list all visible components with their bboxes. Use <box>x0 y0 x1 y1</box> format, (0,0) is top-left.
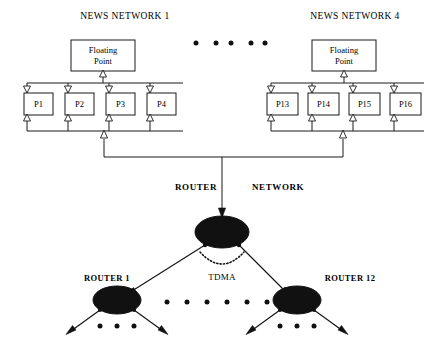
router-ellipsis-dot <box>205 300 210 305</box>
upper-arrow-p1 <box>24 86 31 93</box>
networks-ellipsis <box>194 41 268 46</box>
news-network-1-group: NEWS NETWORK 1 Floating Point P1 P2 <box>24 11 184 157</box>
tdma-label: TDMA <box>208 272 236 282</box>
upper-arrow-p4 <box>147 86 154 93</box>
router-1-leaf-dot <box>132 324 137 329</box>
router-12-label: ROUTER 12 <box>325 273 376 283</box>
router-1-leaf-dot <box>115 324 120 329</box>
router-1-label: ROUTER 1 <box>84 273 130 283</box>
processor-label-p15: P15 <box>358 99 371 109</box>
ellipsis-dot <box>263 41 268 46</box>
router-1-leaf-origin-right <box>132 308 136 312</box>
processor-label-p13: P13 <box>276 99 289 109</box>
upper-arrow-p14 <box>309 86 316 93</box>
router-1-leaf-origin-left <box>98 308 102 312</box>
center-router-node <box>195 216 249 248</box>
router-1-leaf-link-left <box>71 310 100 331</box>
router-12-leaf-origin-right <box>312 308 316 312</box>
trunk-group <box>104 157 343 218</box>
router-network-label-left: ROUTER <box>175 182 217 192</box>
router-network-label-right: NETWORK <box>252 182 304 192</box>
ellipsis-dot <box>249 41 254 46</box>
diagram-canvas: NEWS NETWORK 1 Floating Point P1 P2 <box>0 0 448 338</box>
router-1-leaf-arrowhead-right <box>158 326 168 335</box>
router-1-leaf-dot <box>98 324 103 329</box>
ellipsis-dot <box>194 41 199 46</box>
router-12-leaf-arrowhead-left <box>246 326 256 335</box>
router-ellipsis-dot <box>165 300 170 305</box>
processor-label-p4: P4 <box>157 99 167 109</box>
router-ellipsis-dot <box>265 300 270 305</box>
floating-point-label-line2-net4: Point <box>335 56 354 66</box>
news-network-4-group: NEWS NETWORK 4 Floating Point P13 P14 P1… <box>267 11 424 157</box>
link-center-to-router-1 <box>132 245 205 291</box>
processor-label-p1: P1 <box>34 99 43 109</box>
processor-label-p14: P14 <box>317 99 331 109</box>
router-ellipsis-dot <box>245 300 250 305</box>
router-12-leaf-dot <box>295 324 300 329</box>
router-1-leaf-arrowhead-left <box>66 326 76 335</box>
upper-arrow-p13 <box>268 86 275 93</box>
tdma-dotted-arc <box>200 252 244 264</box>
ellipsis-dot <box>229 41 234 46</box>
router-12-leaf-link-right <box>314 310 343 331</box>
floating-point-label-line1-net1: Floating <box>89 45 118 55</box>
processor-label-p2: P2 <box>75 99 84 109</box>
upper-arrow-p3 <box>106 86 113 93</box>
router-12-leaf-dot <box>278 324 283 329</box>
router-12-leaf-origin-left <box>278 308 282 312</box>
upper-arrow-p15 <box>350 86 357 93</box>
processor-label-p3: P3 <box>116 99 125 109</box>
link-center-to-router-12 <box>239 245 285 291</box>
floating-point-label-line2-net1: Point <box>94 56 113 66</box>
upper-arrow-p16 <box>391 86 398 93</box>
processor-label-p16: P16 <box>399 99 412 109</box>
upper-arrow-p2 <box>65 86 72 93</box>
router-1-leaf-link-right <box>134 310 163 331</box>
news-network-4-title: NEWS NETWORK 4 <box>310 11 400 21</box>
ellipsis-dot <box>214 41 219 46</box>
diagram-svg: NEWS NETWORK 1 Floating Point P1 P2 <box>0 0 448 338</box>
router-ellipsis-dot <box>185 300 190 305</box>
news-network-1-title: NEWS NETWORK 1 <box>80 11 170 21</box>
router-ellipsis-dot <box>225 300 230 305</box>
link-origin-dot-right <box>237 243 241 247</box>
router-12-leaf-link-left <box>251 310 280 331</box>
floating-point-label-line1-net4: Floating <box>330 45 359 55</box>
router-1-group: ROUTER 1 <box>66 273 168 335</box>
router-12-leaf-dot <box>312 324 317 329</box>
router-12-leaf-arrowhead-right <box>338 326 348 335</box>
routers-ellipsis <box>165 300 270 305</box>
link-origin-dot-left <box>203 243 207 247</box>
